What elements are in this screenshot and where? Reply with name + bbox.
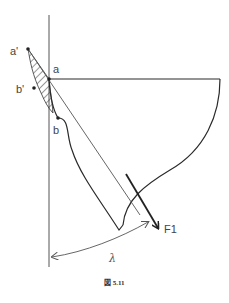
label-f1: F1 [164,223,177,235]
angle-arc-lambda [52,222,148,257]
figure-caption: 図 5.11 [104,278,125,287]
point-a [47,77,51,81]
point-b [56,116,60,120]
label-a-prime: a' [10,45,18,57]
label-b: b [53,124,59,136]
left-curve-boundary [58,118,123,230]
label-b-prime: b' [16,83,24,95]
right-curve-boundary [123,79,220,225]
point-a-prime [26,47,30,51]
label-lambda: λ [108,252,116,265]
point-b-prime [32,86,36,90]
diagram-canvas: a' a b' b F1 λ 図 5.11 [0,0,229,303]
diagonal-line [28,49,140,215]
label-a: a [53,63,60,75]
